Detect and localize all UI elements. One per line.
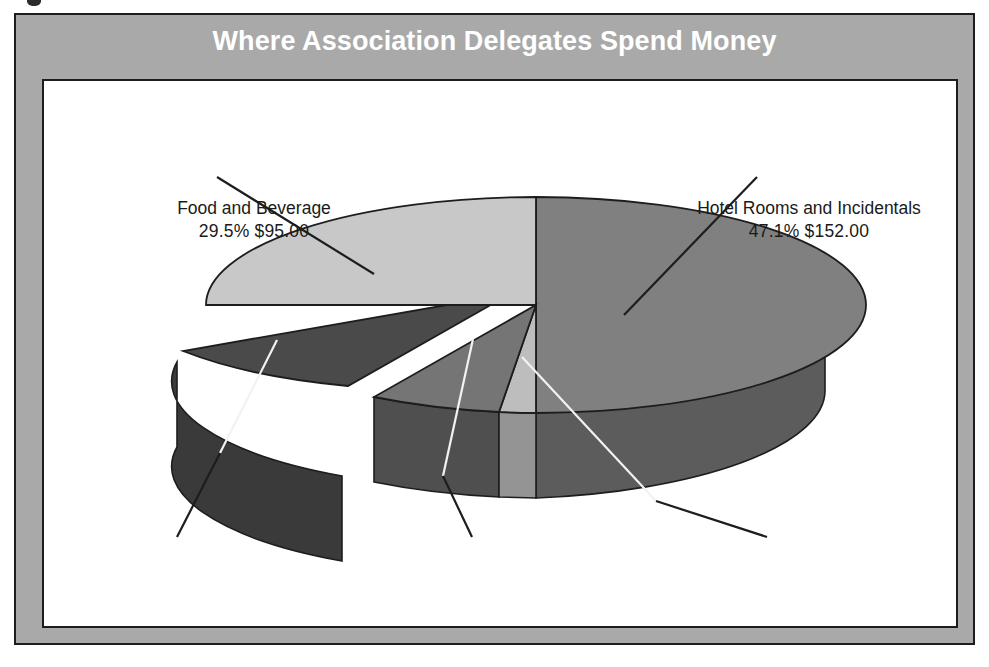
pie-slice-side-retail [374, 397, 499, 497]
slice-label-transportation-name: Transportation [102, 626, 362, 628]
slice-label-hotel-name: Hotel Rooms and Incidentals [636, 197, 958, 220]
pie-slice-side-entertainment [499, 412, 536, 498]
slice-label-food-stats: 29.5% $95.00 [104, 220, 404, 243]
slice-label-food-name: Food and Beverage [104, 197, 404, 220]
pie-chart-3d [44, 81, 958, 628]
slice-label-hotel: Hotel Rooms and Incidentals 47.1% $152.0… [636, 197, 958, 243]
leader-line-entertainment-dark [656, 501, 767, 537]
slice-label-retail-name: Retail Stores [424, 626, 690, 628]
slice-label-hotel-stats: 47.1% $152.00 [636, 220, 958, 243]
slice-label-entertainment: Entertainment 3% $10.00 [704, 626, 958, 628]
slice-label-entertainment-name: Entertainment [704, 626, 958, 628]
chart-plot-panel: Food and Beverage 29.5% $95.00 Hotel Roo… [42, 79, 958, 628]
slice-label-food: Food and Beverage 29.5% $95.00 [104, 197, 404, 243]
chart-title: Where Association Delegates Spend Money [14, 26, 975, 57]
slice-label-transportation: Transportation 9.5% $30.00 [102, 626, 362, 628]
scan-artifact [27, 0, 41, 6]
pie-slice-side-transportation [172, 362, 342, 561]
chart-page: Where Association Delegates Spend Money [0, 0, 989, 667]
slice-label-retail: Retail Stores 10.9% $35.00 [424, 626, 690, 628]
